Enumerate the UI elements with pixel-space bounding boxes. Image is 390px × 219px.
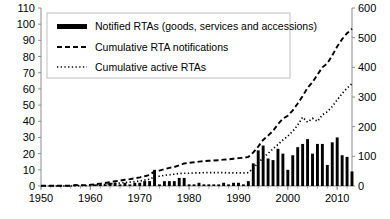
bar <box>217 184 220 186</box>
bar <box>128 184 131 186</box>
bar <box>242 184 245 186</box>
y-axis-left-tick-label: 110 <box>17 2 35 14</box>
y-axis-left-tick-label: 100 <box>17 18 35 30</box>
bar <box>227 184 230 186</box>
bar <box>183 178 186 186</box>
bar <box>163 181 166 186</box>
y-axis-right-tick-label: 400 <box>358 61 376 73</box>
bar <box>321 144 324 186</box>
y-axis-left-tick-label: 90 <box>23 34 35 46</box>
x-axis-tick-label: 1980 <box>177 192 201 204</box>
chart-legend: Notified RTAs (goods, services and acces… <box>47 13 317 78</box>
bar <box>143 181 146 186</box>
bar <box>267 158 270 186</box>
bar <box>316 144 319 186</box>
bar <box>232 183 235 186</box>
bar <box>277 149 280 186</box>
y-axis-left-tick-label: 30 <box>23 131 35 143</box>
bar <box>212 184 215 186</box>
bar <box>336 137 339 186</box>
x-axis: 1950196019701980199020002010 <box>29 186 352 204</box>
x-axis-tick-label: 1990 <box>226 192 250 204</box>
bar <box>202 184 205 186</box>
bar <box>198 183 201 186</box>
y-axis-left-tick-label: 10 <box>23 164 35 176</box>
bar <box>173 181 176 186</box>
bar <box>286 170 289 186</box>
y-axis-right: 0100200300400500600 <box>352 2 376 192</box>
bar <box>326 165 329 186</box>
bar <box>119 184 122 186</box>
bar <box>138 183 141 186</box>
y-axis-left-tick-label: 70 <box>23 67 35 79</box>
y-axis-left-tick-label: 50 <box>23 99 35 111</box>
bar <box>148 181 151 186</box>
bar <box>158 184 161 186</box>
rta-combo-chart: 0102030405060708090100110 01002003004005… <box>0 0 390 219</box>
x-axis-tick-label: 1960 <box>78 192 102 204</box>
y-axis-left-tick-label: 0 <box>29 180 35 192</box>
x-axis-tick-label: 1970 <box>127 192 151 204</box>
bar <box>272 160 275 186</box>
legend-item-notified-rtas: Notified RTAs (goods, services and acces… <box>57 20 317 32</box>
bar <box>133 183 136 186</box>
chart-container: 0102030405060708090100110 01002003004005… <box>0 0 390 219</box>
bar <box>178 178 181 186</box>
bar <box>351 171 354 186</box>
bar <box>341 155 344 186</box>
y-axis-left-tick-label: 20 <box>23 148 35 160</box>
bar <box>257 150 260 186</box>
bar <box>222 183 225 186</box>
y-axis-right-tick-label: 200 <box>358 121 376 133</box>
bar <box>301 144 304 186</box>
legend-label-cumulative-active: Cumulative active RTAs <box>95 61 206 73</box>
x-axis-tick-label: 2000 <box>276 192 300 204</box>
x-axis-tick-label: 1950 <box>29 192 53 204</box>
bar <box>94 184 97 186</box>
bar <box>188 184 191 186</box>
bar <box>262 146 265 186</box>
bar <box>346 157 349 186</box>
bar <box>252 163 255 186</box>
y-axis-right-tick-label: 300 <box>358 91 376 103</box>
bar <box>193 184 196 186</box>
y-axis-left-tick-label: 60 <box>23 83 35 95</box>
thick-bar-swatch-icon <box>57 24 87 29</box>
y-axis-left-tick-label: 80 <box>23 51 35 63</box>
bar <box>291 155 294 186</box>
legend-label-cumulative-notifications: Cumulative RTA notifications <box>95 41 228 53</box>
y-axis-right-tick-label: 500 <box>358 32 376 44</box>
bar <box>237 183 240 186</box>
bar <box>123 183 126 186</box>
bar <box>311 154 314 186</box>
bar <box>296 147 299 186</box>
bar <box>247 181 250 186</box>
bar <box>168 181 171 186</box>
y-axis-left-tick-label: 40 <box>23 115 35 127</box>
y-axis-left: 0102030405060708090100110 <box>17 2 41 192</box>
y-axis-right-tick-label: 0 <box>358 180 364 192</box>
bar <box>331 142 334 186</box>
bar <box>306 139 309 186</box>
bar <box>207 184 210 186</box>
legend-label-notified-rtas: Notified RTAs (goods, services and acces… <box>95 20 317 32</box>
bar <box>281 154 284 186</box>
x-axis-tick-label: 2010 <box>325 192 349 204</box>
y-axis-right-tick-label: 600 <box>358 2 376 14</box>
y-axis-right-tick-label: 100 <box>358 150 376 162</box>
